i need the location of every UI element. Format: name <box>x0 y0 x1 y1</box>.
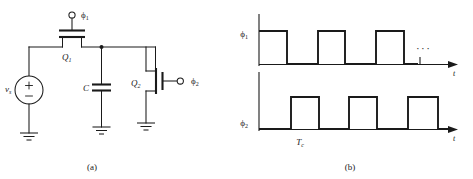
figure-canvas: ϕ1 Q1 <box>0 0 473 179</box>
terminal-circle-phi1[interactable] <box>69 12 75 18</box>
ground-symbol-vs <box>21 133 38 140</box>
phi1-ellipsis-annotation: ··· <box>416 42 431 54</box>
label-c: C <box>83 83 90 93</box>
transistor-q2[interactable] <box>146 47 177 123</box>
phi2-axes <box>259 72 458 133</box>
transistor-q1[interactable] <box>59 31 85 48</box>
phi1-waveform-trace <box>259 31 418 64</box>
label-clock-period-tc: Tc <box>296 137 304 148</box>
panel-b-waveforms: ϕ1 t ··· ϕ2 t Tc (b) <box>240 14 458 172</box>
terminal-phi1[interactable] <box>69 12 75 30</box>
capacitor-c[interactable] <box>92 47 111 127</box>
label-phi2-terminal: ϕ2 <box>191 76 199 87</box>
label-phi2-time-axis: t <box>453 134 456 143</box>
voltage-source-vs[interactable] <box>15 47 43 133</box>
ground-symbol-q2 <box>138 123 155 130</box>
terminal-circle-phi2[interactable] <box>177 78 183 84</box>
panel-caption-b: (b) <box>345 162 356 172</box>
panel-caption-a: (a) <box>87 162 97 172</box>
label-phi1-waveform: ϕ1 <box>240 29 248 40</box>
label-q1: Q1 <box>62 52 72 63</box>
phi1-t-axis-arrow <box>448 61 458 68</box>
phi2-waveform-trace <box>259 97 448 129</box>
label-q2: Q2 <box>131 78 141 89</box>
label-vs: vs <box>5 84 12 95</box>
vs-circle <box>15 76 43 104</box>
label-phi1-time-axis: t <box>453 69 456 78</box>
terminal-phi2[interactable] <box>177 78 183 84</box>
ground-symbol-c <box>93 127 110 134</box>
label-phi1-terminal: ϕ1 <box>81 10 89 21</box>
phi2-t-axis-arrow <box>448 126 458 133</box>
label-phi2-waveform: ϕ2 <box>240 118 248 129</box>
figure-root: ϕ1 Q1 <box>0 0 473 179</box>
panel-a-circuit: ϕ1 Q1 <box>5 10 199 172</box>
